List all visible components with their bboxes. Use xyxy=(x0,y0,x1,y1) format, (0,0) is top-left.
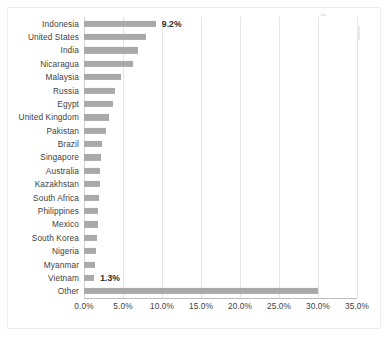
bar-row: Egypt xyxy=(84,97,357,110)
bar xyxy=(84,114,109,120)
category-label: South Africa xyxy=(33,193,79,203)
category-label: Nicaragua xyxy=(40,59,79,69)
bar-row: Kazakhstan xyxy=(84,178,357,191)
category-label: Kazakhstan xyxy=(35,179,79,189)
bar-chart-figure: Indonesia9.2%United StatesIndiaNicaragua… xyxy=(0,0,389,338)
category-label: Other xyxy=(58,286,79,296)
bars-layer: Indonesia9.2%United StatesIndiaNicaragua… xyxy=(84,17,357,298)
category-label: Russia xyxy=(53,86,79,96)
bar-row: Myanmar xyxy=(84,258,357,271)
bar-row: Pakistan xyxy=(84,124,357,137)
bar-row: United States xyxy=(84,30,357,43)
category-label: Indonesia xyxy=(42,19,79,29)
category-label: Malaysia xyxy=(45,72,79,82)
x-tick-label: 30.0% xyxy=(306,301,330,311)
x-tick-label: 15.0% xyxy=(189,301,213,311)
bar-row: Australia xyxy=(84,164,357,177)
category-label: Egypt xyxy=(57,99,79,109)
bar xyxy=(84,288,318,294)
bar xyxy=(84,208,98,214)
bar xyxy=(84,275,94,281)
bar-value-label: 9.2% xyxy=(162,19,182,29)
category-label: Brazil xyxy=(58,139,79,149)
bar xyxy=(84,248,96,254)
x-tick-label: 35.0% xyxy=(345,301,369,311)
category-label: Nigeria xyxy=(52,246,79,256)
x-tick-label: 0.0% xyxy=(74,301,93,311)
bar xyxy=(84,87,115,93)
bar xyxy=(84,47,138,53)
bar xyxy=(84,141,102,147)
bar-row: Nigeria xyxy=(84,244,357,257)
scan-artifact xyxy=(358,26,360,40)
bar-row: Russia xyxy=(84,84,357,97)
bar-row: Brazil xyxy=(84,137,357,150)
category-label: Australia xyxy=(46,166,79,176)
x-tick-label: 10.0% xyxy=(150,301,174,311)
bar-row: Mexico xyxy=(84,218,357,231)
bar xyxy=(84,34,146,40)
bar xyxy=(84,74,121,80)
bar xyxy=(84,154,101,160)
bar-row: Vietnam1.3% xyxy=(84,271,357,284)
bar xyxy=(84,261,95,267)
bar-row: India xyxy=(84,44,357,57)
bar-row: Indonesia9.2% xyxy=(84,17,357,30)
category-label: Mexico xyxy=(52,219,79,229)
x-tick-label: 25.0% xyxy=(267,301,291,311)
bar-row: Philippines xyxy=(84,204,357,217)
category-label: Vietnam xyxy=(48,273,79,283)
category-label: Philippines xyxy=(38,206,79,216)
bar-row: Other xyxy=(84,285,357,298)
bar xyxy=(84,21,156,27)
bar xyxy=(84,61,133,67)
bar-value-label: 1.3% xyxy=(100,273,120,283)
bar xyxy=(84,101,113,107)
bar xyxy=(84,168,100,174)
bar-row: Singapore xyxy=(84,151,357,164)
scan-artifact xyxy=(321,14,326,16)
x-tick-label: 5.0% xyxy=(113,301,132,311)
bar-row: Nicaragua xyxy=(84,57,357,70)
bar-row: South Africa xyxy=(84,191,357,204)
x-axis-tick-labels: 0.0%5.0%10.0%15.0%20.0%25.0%30.0%35.0% xyxy=(84,301,357,317)
x-axis-line xyxy=(84,298,357,299)
bar-row: United Kingdom xyxy=(84,111,357,124)
bar xyxy=(84,181,100,187)
category-label: Pakistan xyxy=(46,126,79,136)
bar xyxy=(84,128,106,134)
category-label: United Kingdom xyxy=(19,112,79,122)
category-label: Singapore xyxy=(40,152,79,162)
category-label: South Korea xyxy=(32,233,79,243)
bar-row: South Korea xyxy=(84,231,357,244)
plot-area: Indonesia9.2%United StatesIndiaNicaragua… xyxy=(84,17,357,298)
x-tick-label: 20.0% xyxy=(228,301,252,311)
bar-row: Malaysia xyxy=(84,71,357,84)
bar xyxy=(84,235,97,241)
gridline xyxy=(357,17,358,298)
category-label: United States xyxy=(28,32,79,42)
category-label: Myanmar xyxy=(44,260,79,270)
category-label: India xyxy=(61,45,80,55)
bar xyxy=(84,195,99,201)
bar xyxy=(84,221,98,227)
